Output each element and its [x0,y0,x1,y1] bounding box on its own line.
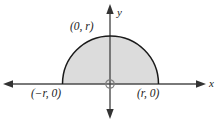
y-axis-label: y [117,7,122,18]
point-label-top: (0, r) [70,21,94,33]
figure-canvas [0,0,222,123]
point-label-left: (−r, 0) [31,88,61,100]
x-axis-label: x [209,78,214,89]
point-label-right: (r, 0) [137,88,159,100]
y-axis-down-arrow-icon [106,109,113,119]
y-axis-up-arrow-icon [106,4,113,14]
x-axis-right-arrow-icon [196,80,206,88]
semicircle-figure: y x (0, r) (−r, 0) (r, 0) [0,0,222,123]
x-axis-left-arrow-icon [3,80,13,88]
